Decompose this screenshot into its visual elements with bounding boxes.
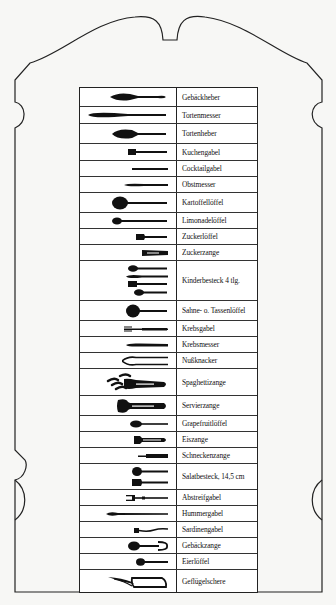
table-row: Sardinengabel bbox=[80, 522, 257, 538]
salad-servers-icon bbox=[80, 464, 177, 489]
table-row: Schneckenzange bbox=[80, 448, 257, 464]
item-label: Nußknacker bbox=[177, 353, 257, 368]
lobster-fork-icon bbox=[80, 506, 177, 521]
item-label: Tortenmesser bbox=[177, 107, 257, 123]
cake-knife-icon bbox=[80, 107, 177, 123]
cocktail-fork-icon bbox=[80, 161, 177, 176]
table-row: Abstreifgabel bbox=[80, 490, 257, 506]
item-label: Kinderbesteck 4 tlg. bbox=[177, 261, 257, 300]
fruit-knife-icon bbox=[80, 177, 177, 192]
tart-server-icon bbox=[80, 124, 177, 143]
table-row: Gebäckheber bbox=[80, 88, 257, 107]
table-row: Eiszange bbox=[80, 432, 257, 448]
item-label: Abstreifgabel bbox=[177, 490, 257, 505]
table-row: Zuckerzange bbox=[80, 245, 257, 261]
item-label: Sardinengabel bbox=[177, 522, 257, 537]
item-label: Hummergabel bbox=[177, 506, 257, 521]
item-label: Gebäckheber bbox=[177, 88, 257, 106]
cake-fork-icon bbox=[80, 144, 177, 160]
table-row: Grapefruitlöffel bbox=[80, 416, 257, 432]
sardine-fork-icon bbox=[80, 522, 177, 537]
ice-tongs-icon bbox=[80, 432, 177, 447]
item-label: Krebsmesser bbox=[177, 337, 257, 352]
snail-tongs-icon bbox=[80, 448, 177, 463]
table-row: Tortenmesser bbox=[80, 107, 257, 124]
table-row: Salatbesteck, 14,5 cm bbox=[80, 464, 257, 490]
item-label: Cocktailgabel bbox=[177, 161, 257, 176]
table-row: Tortenheber bbox=[80, 124, 257, 144]
spaghetti-tongs-icon bbox=[80, 369, 177, 395]
item-label: Gebäckzange bbox=[177, 538, 257, 553]
table-row: Limonadelöffel bbox=[80, 213, 257, 229]
item-label: Grapefruitlöffel bbox=[177, 416, 257, 431]
item-label: Spaghettizange bbox=[177, 369, 257, 395]
sugar-tongs-icon bbox=[80, 245, 177, 260]
item-label: Salatbesteck, 14,5 cm bbox=[177, 464, 257, 489]
table-row: Kuchengabel bbox=[80, 144, 257, 161]
potato-spoon-icon bbox=[80, 193, 177, 212]
nutcracker-icon bbox=[80, 353, 177, 368]
table-row: Nußknacker bbox=[80, 353, 257, 369]
item-label: Schneckenzange bbox=[177, 448, 257, 463]
table-row: Hummergabel bbox=[80, 506, 257, 522]
cutlery-table: Gebäckheber Tortenmesser Tortenheber Kuc… bbox=[79, 87, 258, 593]
item-label: Kuchengabel bbox=[177, 144, 257, 160]
table-row: Sahne- o. Tassenlöffel bbox=[80, 301, 257, 321]
item-label: Tortenheber bbox=[177, 124, 257, 143]
serving-tongs-icon bbox=[80, 396, 177, 415]
crab-fork-icon bbox=[80, 321, 177, 336]
childrens-cutlery-icon bbox=[80, 261, 177, 300]
cream-spoon-icon bbox=[80, 301, 177, 320]
crab-knife-icon bbox=[80, 337, 177, 352]
pastry-tongs-icon bbox=[80, 538, 177, 553]
table-row: Spaghettizange bbox=[80, 369, 257, 396]
item-label: Eierlöffel bbox=[177, 554, 257, 569]
egg-spoon-icon bbox=[80, 554, 177, 569]
table-row: Eierlöffel bbox=[80, 554, 257, 570]
item-label: Zuckerzange bbox=[177, 245, 257, 260]
item-label: Limonadelöffel bbox=[177, 213, 257, 228]
item-label: Sahne- o. Tassenlöffel bbox=[177, 301, 257, 320]
stripping-fork-icon bbox=[80, 490, 177, 505]
table-row: Zuckerlöffel bbox=[80, 229, 257, 245]
table-row: Geflügelschere bbox=[80, 570, 257, 592]
item-label: Eiszange bbox=[177, 432, 257, 447]
item-label: Servierzange bbox=[177, 396, 257, 415]
item-label: Zuckerlöffel bbox=[177, 229, 257, 244]
table-row: Krebsmesser bbox=[80, 337, 257, 353]
sugar-spoon-icon bbox=[80, 229, 177, 244]
grapefruit-spoon-icon bbox=[80, 416, 177, 431]
table-row: Kartoffellöffel bbox=[80, 193, 257, 213]
item-label: Obstmesser bbox=[177, 177, 257, 192]
poultry-shears-icon bbox=[80, 570, 177, 592]
table-row: Gebäckzange bbox=[80, 538, 257, 554]
table-row: Kinderbesteck 4 tlg. bbox=[80, 261, 257, 301]
table-row: Servierzange bbox=[80, 396, 257, 416]
cake-server-icon bbox=[80, 88, 177, 106]
table-row: Cocktailgabel bbox=[80, 161, 257, 177]
lemonade-spoon-icon bbox=[80, 213, 177, 228]
table-row: Obstmesser bbox=[80, 177, 257, 193]
item-label: Krebsgabel bbox=[177, 321, 257, 336]
item-label: Geflügelschere bbox=[177, 570, 257, 592]
table-row: Krebsgabel bbox=[80, 321, 257, 337]
item-label: Kartoffellöffel bbox=[177, 193, 257, 212]
